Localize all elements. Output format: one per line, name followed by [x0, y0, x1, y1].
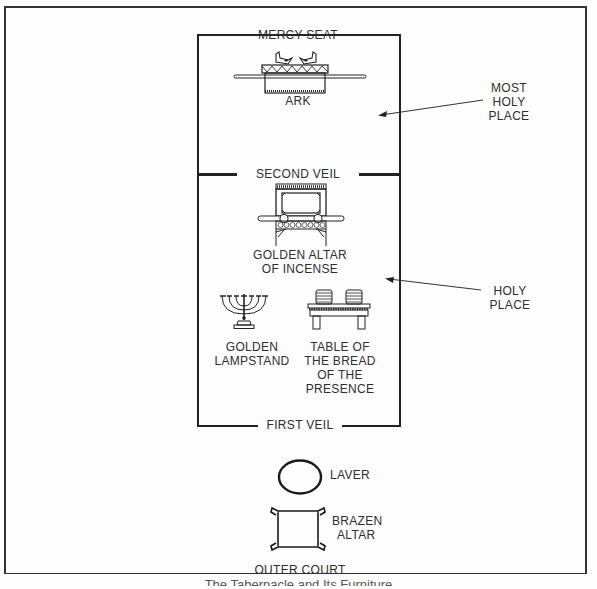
lampstand-label-1: GOLDEN: [210, 340, 294, 355]
ark-of-covenant-icon: [232, 50, 368, 100]
laver-label: LAVER: [330, 468, 380, 483]
golden-altar-label-2: OF INCENSE: [220, 262, 380, 277]
second-veil-label: SECOND VEIL: [240, 167, 356, 182]
most-holy-label-3: PLACE: [486, 109, 532, 124]
golden-altar-label-1: GOLDEN ALTAR: [220, 248, 380, 263]
laver-icon: [276, 458, 324, 496]
most-holy-label-1: MOST: [486, 81, 532, 96]
arrow-most-holy-icon: [375, 98, 485, 118]
second-veil-line-left: [197, 173, 237, 176]
figure-caption: The Tabernacle and Its Furniture: [0, 578, 597, 589]
ark-label: ARK: [258, 94, 338, 109]
table-label-1: TABLE OF: [300, 340, 380, 355]
first-veil-label: FIRST VEIL: [258, 418, 342, 433]
holy-place-label-1: HOLY: [488, 284, 532, 299]
brazen-altar-label-1: BRAZEN: [332, 514, 392, 529]
table-of-showbread-icon: [306, 288, 372, 332]
holy-place-label-2: PLACE: [488, 298, 532, 313]
second-veil-line-right: [359, 173, 401, 176]
table-label-3: OF THE: [300, 368, 380, 383]
brazen-altar-label-2: ALTAR: [337, 528, 397, 543]
table-label-4: PRESENCE: [300, 382, 380, 397]
golden-altar-of-incense-icon: [256, 184, 346, 248]
golden-lampstand-icon: [218, 292, 270, 330]
outer-court-label: OUTER COURT: [230, 563, 370, 578]
brazen-altar-icon: [268, 505, 328, 553]
most-holy-label-2: HOLY: [486, 95, 532, 110]
mercy-seat-label: MERCY SEAT: [240, 28, 356, 43]
lampstand-label-2: LAMPSTAND: [206, 354, 298, 369]
table-label-2: THE BREAD: [300, 354, 380, 369]
arrow-holy-place-icon: [383, 276, 483, 292]
